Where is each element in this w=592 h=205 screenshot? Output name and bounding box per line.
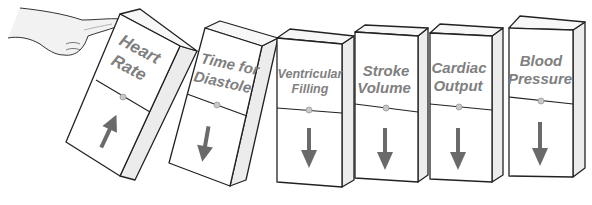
- domino-label: Blood: [520, 52, 563, 69]
- domino-label: Volume: [357, 79, 411, 96]
- domino-label: Filling: [292, 82, 329, 96]
- domino-label: Pressure: [508, 70, 572, 87]
- domino-label: Cardiac: [431, 59, 487, 76]
- domino-stroke-volume: Stroke Volume: [355, 25, 428, 182]
- domino-cardiac-output: Cardiac Output: [430, 24, 503, 182]
- domino-label: Output: [433, 77, 483, 94]
- pointing-hand-icon: [8, 8, 121, 55]
- domino-label: Stroke: [363, 62, 410, 79]
- domino-label: Ventricular: [278, 67, 344, 81]
- domino-blood-pressure: Blood Pressure: [508, 16, 585, 177]
- domino-diagram: Heart Rate Time for Diastole Ventricular…: [0, 0, 592, 205]
- domino-ventricular-filling: Ventricular Filling: [277, 29, 354, 187]
